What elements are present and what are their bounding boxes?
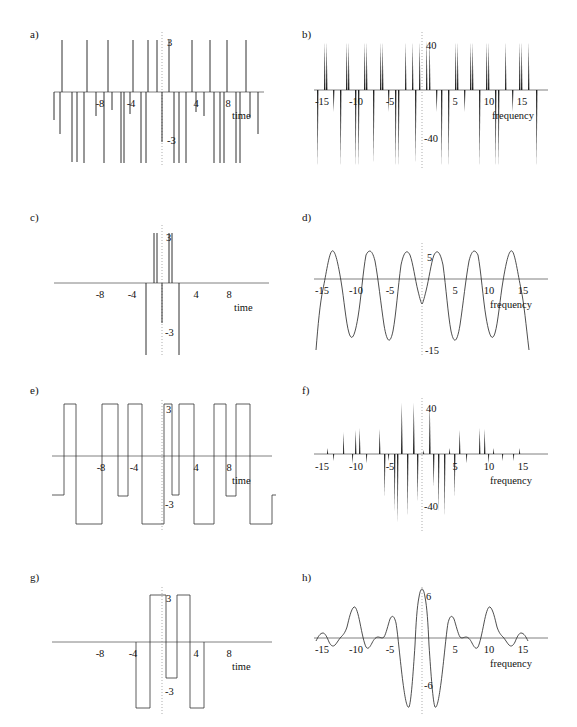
panel-d-xtick-neg5: -5 [386, 285, 395, 296]
panel-h-xaxis-label: frequency [490, 658, 533, 669]
panel-f-ytick-40: 40 [426, 403, 437, 414]
panel-a-plot: -8 -4 4 8 3 -3 time [24, 24, 284, 174]
panel-e-xaxis-label: time [232, 475, 251, 486]
panel-c-plot: -8 -4 4 8 3 -3 time [24, 205, 284, 360]
panel-h: h) -15 -10 -5 5 10 15 6 -6 frequency [300, 565, 570, 720]
panel-a-xtick-4: 4 [193, 98, 199, 109]
panel-f-xtick-neg10: -10 [349, 461, 363, 472]
panel-d-ytick-neg15: -15 [425, 345, 439, 356]
panel-a-xtick-8: 8 [225, 98, 230, 109]
panel-b: b) [300, 24, 570, 174]
panel-f-xtick-5: 5 [452, 461, 457, 472]
panel-b-xtick-5: 5 [452, 96, 457, 107]
panel-b-xtick-neg10: -10 [349, 96, 363, 107]
panel-h-xtick-neg15: -15 [315, 644, 329, 655]
panel-c: c) -8 -4 4 8 3 -3 time [24, 205, 284, 360]
panel-a-xtick-neg8: -8 [96, 98, 105, 109]
panel-c-label: c) [30, 211, 39, 223]
panel-e-xtick-neg8: -8 [97, 462, 106, 473]
panel-g-xtick-neg4: -4 [129, 648, 138, 659]
panel-f-plot: -15 -10 -5 5 10 15 40 -40 frequency [300, 382, 570, 537]
panel-b-ticks: -15 -10 -5 5 10 15 40 -40 frequency [315, 40, 535, 144]
panel-f-label: f) [302, 384, 309, 396]
panel-h-xtick-10: 10 [484, 644, 495, 655]
panel-e-xtick-neg4: -4 [130, 462, 139, 473]
panel-f-xtick-neg5: -5 [386, 461, 395, 472]
panel-b-label: b) [302, 28, 311, 40]
panel-h-plot: -15 -10 -5 5 10 15 6 -6 frequency [300, 565, 570, 720]
panel-h-xtick-neg10: -10 [349, 644, 363, 655]
panel-b-plot: -15 -10 -5 5 10 15 40 -40 frequency [300, 24, 570, 174]
panel-f-xtick-neg15: -15 [315, 461, 329, 472]
panel-a-ytick-neg3: -3 [167, 135, 176, 146]
panel-d-xtick-5: 5 [452, 285, 457, 296]
panel-c-ytick-3: 3 [166, 232, 171, 243]
panel-g-xtick-8: 8 [226, 648, 231, 659]
panel-e-ytick-neg3: -3 [165, 499, 174, 510]
panel-b-xtick-neg5: -5 [386, 96, 395, 107]
panel-g-plot: -8 -4 4 8 3 -3 time [24, 565, 284, 720]
panel-a-ticks: -8 -4 4 8 3 -3 time [96, 37, 251, 146]
panel-d-ticks: -15 -10 -5 5 10 15 5 -15 frequency [315, 252, 533, 356]
panel-a-ytick-3: 3 [167, 37, 172, 48]
panel-e-axes [52, 400, 272, 532]
panel-e-xtick-8: 8 [226, 462, 231, 473]
panel-e: e) -8 -4 4 8 3 -3 time [24, 382, 284, 537]
panel-e-label: e) [30, 384, 39, 396]
panel-c-xaxis-label: time [234, 302, 253, 313]
panel-f-xtick-15: 15 [518, 461, 529, 472]
panel-b-ytick-neg40: -40 [424, 133, 438, 144]
panel-h-label: h) [302, 571, 311, 583]
panel-g: g) -8 -4 4 8 3 -3 time [24, 565, 284, 720]
panel-b-xtick-15: 15 [517, 96, 528, 107]
panel-g-xtick-4: 4 [193, 648, 199, 659]
panel-c-impulses [146, 233, 179, 355]
panel-a-axes [54, 32, 264, 166]
panel-a-xaxis-label: time [232, 110, 251, 121]
panel-e-xtick-4: 4 [193, 462, 199, 473]
panel-g-xtick-neg8: -8 [96, 648, 105, 659]
panel-d-plot: -15 -10 -5 5 10 15 5 -15 frequency [300, 205, 570, 360]
panel-d-label: d) [302, 211, 311, 223]
panel-b-xaxis-label: frequency [492, 110, 535, 121]
panel-c-axes [54, 225, 269, 357]
panel-a-xtick-neg4: -4 [127, 98, 136, 109]
panel-g-label: g) [30, 571, 39, 583]
panel-d-xtick-neg15: -15 [315, 285, 329, 296]
panel-g-axes [52, 587, 272, 715]
panel-h-ticks: -15 -10 -5 5 10 15 6 -6 frequency [315, 591, 533, 691]
panel-b-ytick-40: 40 [426, 40, 437, 51]
panel-c-xtick-8: 8 [226, 289, 231, 300]
panel-f: f) [300, 382, 570, 537]
panel-h-xtick-15: 15 [518, 644, 529, 655]
panel-c-ytick-neg3: -3 [165, 327, 174, 338]
panel-h-xtick-neg5: -5 [386, 644, 395, 655]
panel-d: d) -15 -10 -5 5 10 15 5 -15 frequency [300, 205, 570, 360]
panel-a-label: a) [30, 28, 39, 40]
panel-g-ytick-neg3: -3 [165, 686, 174, 697]
panel-e-ytick-3: 3 [166, 404, 171, 415]
panel-e-squarewave [52, 404, 276, 524]
panel-g-xaxis-label: time [232, 661, 251, 672]
panel-c-xtick-neg8: -8 [96, 289, 105, 300]
panel-d-ytick-5: 5 [427, 252, 432, 263]
panel-c-xtick-neg4: -4 [128, 289, 137, 300]
panel-f-ticks: -15 -10 -5 5 10 15 40 -40 frequency [315, 403, 533, 512]
panel-e-plot: -8 -4 4 8 3 -3 time [24, 382, 284, 537]
panel-c-xtick-4: 4 [193, 289, 199, 300]
panel-g-ytick-3: 3 [166, 593, 171, 604]
panel-d-xtick-10: 10 [484, 285, 495, 296]
panel-a: a) [24, 24, 284, 174]
panel-f-xaxis-label: frequency [490, 475, 533, 486]
panel-d-xaxis-label: frequency [490, 299, 533, 310]
panel-h-ytick-neg6: -6 [424, 680, 433, 691]
panel-h-ytick-6: 6 [426, 591, 431, 602]
panel-g-ticks: -8 -4 4 8 3 -3 time [96, 593, 251, 697]
panel-c-ticks: -8 -4 4 8 3 -3 time [96, 232, 253, 338]
panel-b-xtick-10: 10 [484, 96, 495, 107]
panel-h-xtick-5: 5 [452, 644, 457, 655]
panel-d-xtick-15: 15 [518, 285, 529, 296]
panel-d-xtick-neg10: -10 [349, 285, 363, 296]
panel-b-xtick-neg15: -15 [315, 96, 329, 107]
figure-sheet: a) [0, 0, 577, 727]
